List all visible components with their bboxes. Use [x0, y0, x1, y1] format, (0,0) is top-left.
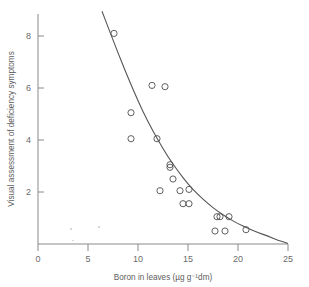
- data-point: [177, 188, 183, 194]
- x-tick-label-5: 5: [85, 254, 90, 264]
- fitted-trend-curve: [102, 11, 288, 243]
- y-axis-tick-labels: 2 4 6 8: [26, 31, 31, 197]
- chart-figure: 2 4 6 8 0 5 10 15 20 25 Boron in leaves …: [0, 0, 309, 287]
- data-point: [212, 228, 218, 234]
- data-points-layer: [111, 30, 249, 234]
- background-specks: [70, 226, 100, 241]
- scatter-plot-svg: 2 4 6 8 0 5 10 15 20 25 Boron in leaves …: [0, 0, 309, 287]
- data-point: [186, 186, 192, 192]
- data-point: [128, 110, 134, 116]
- x-axis-ticks: [38, 244, 288, 251]
- data-point: [111, 30, 117, 36]
- y-tick-label-4: 4: [26, 135, 31, 145]
- x-tick-label-15: 15: [183, 254, 193, 264]
- x-tick-label-25: 25: [283, 254, 293, 264]
- x-axis-tick-labels: 0 5 10 15 20 25: [35, 254, 293, 264]
- plot-axes: [38, 14, 288, 251]
- data-point: [222, 228, 228, 234]
- y-axis-title: Visual assessment of deficiency symptoms: [7, 51, 16, 206]
- data-point: [170, 176, 176, 182]
- y-tick-label-6: 6: [26, 83, 31, 93]
- data-point: [128, 136, 134, 142]
- data-point: [149, 82, 155, 88]
- data-point: [186, 201, 192, 207]
- x-axis-title: Boron in leaves (µg g⁻¹dm): [114, 273, 213, 282]
- data-point: [180, 201, 186, 207]
- y-tick-label-2: 2: [26, 187, 31, 197]
- x-tick-label-20: 20: [233, 254, 243, 264]
- x-tick-label-10: 10: [133, 254, 143, 264]
- y-axis-ticks: [38, 36, 44, 192]
- data-point: [157, 188, 163, 194]
- x-tick-label-0: 0: [35, 254, 40, 264]
- y-tick-label-8: 8: [26, 31, 31, 41]
- data-point: [162, 84, 168, 90]
